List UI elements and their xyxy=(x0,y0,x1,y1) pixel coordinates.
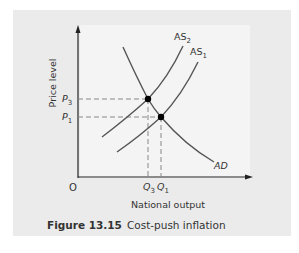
figure-number: Figure 13.15 xyxy=(47,219,122,231)
plot-area xyxy=(80,25,250,178)
cost-push-inflation-chart: AD AS2 AS1 P3 P1 Q3 Q1 O National output… xyxy=(0,0,299,253)
p1-label: P1 xyxy=(62,111,72,125)
x-axis-title: National output xyxy=(131,199,205,210)
y-axis xyxy=(76,25,81,178)
y-axis-arrow-icon xyxy=(76,25,81,33)
equilibrium-point-e1 xyxy=(158,114,164,120)
figure-caption: Figure 13.15Cost-push inflation xyxy=(47,219,226,231)
ad-label: AD xyxy=(213,160,228,171)
equilibrium-point-e3 xyxy=(145,96,151,102)
figure-title: Cost-push inflation xyxy=(127,219,226,231)
p3-label: P3 xyxy=(62,93,72,107)
y-axis-title: Price level xyxy=(47,59,58,108)
origin-label: O xyxy=(69,182,77,193)
q3-label: Q3 xyxy=(143,181,155,195)
q1-label: Q1 xyxy=(157,181,169,195)
